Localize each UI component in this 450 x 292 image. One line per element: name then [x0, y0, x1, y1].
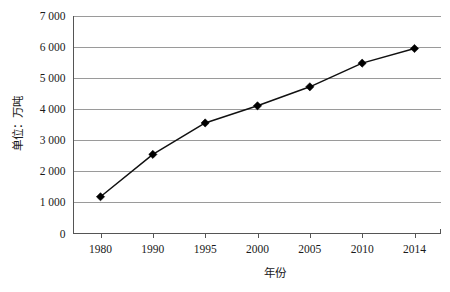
y-tick-label: 1 000 [40, 196, 66, 208]
chart-background [0, 0, 450, 292]
y-tick-label: 2 000 [40, 165, 66, 177]
y-tick-label: 5 000 [40, 72, 66, 84]
y-tick-label: 7 000 [40, 10, 66, 22]
x-tick-label: 1990 [141, 243, 164, 255]
x-tick-label: 2000 [246, 243, 269, 255]
y-tick-label: 6 000 [40, 41, 66, 53]
line-chart: 01 0002 0003 0004 0005 0006 0007 000 198… [0, 0, 450, 292]
y-tick-label: 3 000 [40, 134, 66, 146]
y-tick-label: 0 [60, 228, 66, 240]
x-tick-label: 2010 [351, 243, 374, 255]
x-tick-label: 2005 [298, 243, 321, 255]
x-tick-label: 1980 [89, 243, 112, 255]
chart-canvas: 01 0002 0003 0004 0005 0006 0007 000 198… [0, 0, 450, 292]
y-axis-title: 单位：万吨 [11, 95, 25, 151]
y-tick-label: 4 000 [40, 103, 66, 115]
x-tick-label: 2014 [403, 243, 426, 255]
x-tick-label: 1995 [194, 243, 217, 255]
x-axis-title: 年份 [264, 266, 287, 280]
